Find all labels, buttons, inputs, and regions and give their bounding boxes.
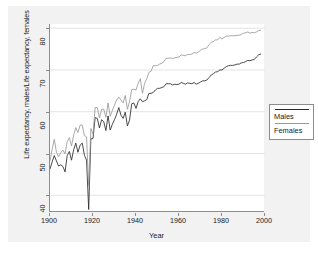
x-tick-mark-1920 [92, 213, 93, 216]
legend-entry-females[interactable]: Females [270, 123, 313, 136]
y-axis-title: Life expectancy, males/Life expectancy, … [22, 0, 31, 207]
x-tick-label-1980: 1980 [206, 216, 236, 225]
x-tick-label-1940: 1940 [120, 216, 150, 225]
plot-area [49, 24, 264, 212]
y-tick-label-60: 60 [38, 112, 47, 138]
series-line-females [50, 30, 261, 186]
legend-line-swatch-males [275, 109, 309, 110]
legend-line-swatch-females [275, 123, 309, 124]
chart-legend: MalesFemales [269, 104, 314, 140]
x-tick-mark-1980 [221, 213, 222, 216]
y-tick-mark-40 [46, 195, 49, 196]
legend-entry-males[interactable]: Males [270, 109, 313, 122]
y-tick-mark-50 [46, 154, 49, 155]
x-tick-mark-1960 [178, 213, 179, 216]
y-tick-mark-80 [46, 28, 49, 29]
legend-label-males: Males [274, 111, 313, 122]
y-tick-label-50: 50 [38, 154, 47, 180]
y-tick-mark-60 [46, 112, 49, 113]
series-line-males [50, 54, 261, 209]
chart-figure: Life expectancy, males/Life expectancy, … [0, 0, 318, 256]
y-tick-label-70: 70 [38, 70, 47, 96]
x-tick-mark-1940 [135, 213, 136, 216]
gridlines [50, 28, 265, 195]
y-tick-label-80: 80 [38, 29, 47, 55]
y-tick-mark-70 [46, 70, 49, 71]
x-tick-label-1920: 1920 [77, 216, 107, 225]
x-tick-mark-1900 [49, 213, 50, 216]
x-tick-label-1960: 1960 [163, 216, 193, 225]
series-paths [50, 30, 261, 209]
legend-label-females: Females [274, 125, 313, 136]
x-axis-title: Year [49, 231, 264, 240]
x-tick-label-1900: 1900 [34, 216, 64, 225]
x-tick-label-2000: 2000 [249, 216, 279, 225]
x-tick-mark-2000 [264, 213, 265, 216]
graph-canvas: Life expectancy, males/Life expectancy, … [8, 6, 310, 242]
line-chart-svg [50, 24, 265, 212]
